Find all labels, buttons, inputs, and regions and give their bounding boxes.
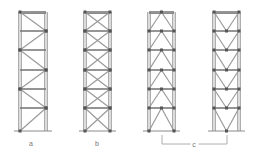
label-c: c [192, 141, 196, 148]
label-a: a [29, 140, 33, 147]
label-b: b [95, 140, 99, 147]
frame-b [79, 11, 116, 133]
frame-a [14, 11, 52, 133]
braced-frames-diagram: a b c [0, 0, 256, 157]
frame-c2 [208, 11, 245, 133]
frame-c1 [143, 11, 180, 133]
